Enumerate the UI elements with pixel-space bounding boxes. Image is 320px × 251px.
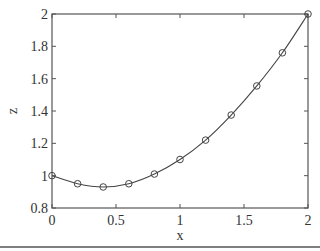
y-tick-label: 1.4 bbox=[31, 104, 49, 119]
y-tick-label: 1.6 bbox=[31, 72, 49, 87]
y-tick-label: 1.2 bbox=[31, 136, 49, 151]
line-chart: 00.511.52 0.811.21.41.61.82 x z bbox=[0, 0, 320, 251]
y-tick-label: 0.8 bbox=[31, 201, 49, 216]
x-tick-label: 0 bbox=[49, 213, 56, 228]
data-series bbox=[49, 11, 312, 191]
y-tick-label: 1.8 bbox=[31, 39, 49, 54]
y-axis-label: z bbox=[5, 108, 20, 114]
plot-frame bbox=[52, 14, 308, 208]
x-axis-tick-labels: 00.511.52 bbox=[49, 213, 312, 228]
axis-ticks bbox=[52, 14, 308, 208]
y-tick-label: 1 bbox=[41, 169, 48, 184]
y-axis-tick-labels: 0.811.21.41.61.82 bbox=[31, 7, 49, 216]
series-line bbox=[52, 14, 308, 187]
x-tick-label: 1 bbox=[177, 213, 184, 228]
x-tick-label: 2 bbox=[305, 213, 312, 228]
x-tick-label: 1.5 bbox=[235, 213, 253, 228]
x-axis-label: x bbox=[177, 228, 184, 243]
plot-box bbox=[52, 14, 308, 208]
x-tick-label: 0.5 bbox=[107, 213, 125, 228]
chart-figure: 00.511.52 0.811.21.41.61.82 x z bbox=[0, 0, 320, 251]
y-tick-label: 2 bbox=[41, 7, 48, 22]
